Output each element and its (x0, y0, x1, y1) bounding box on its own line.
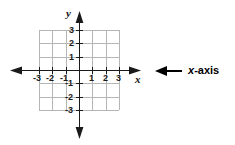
x-axis-label: x (135, 74, 141, 85)
x-axis-line (10, 67, 141, 75)
y-tick-label-2: 2 (69, 39, 74, 48)
y-axis-label: y (66, 8, 71, 19)
x-tick-label-3: 3 (116, 74, 121, 83)
x-axis-callout-suffix: -axis (194, 64, 219, 76)
left-arrow-icon (155, 66, 182, 76)
x-tick-label-1: 1 (89, 74, 94, 83)
y-tick-label-3: 3 (69, 26, 74, 35)
x-tick-label-2: 2 (103, 74, 108, 83)
x-axis-left-arrowhead-icon (10, 67, 22, 75)
x-axis-callout-label: x-axis (188, 65, 219, 76)
y-axis-top-arrowhead-icon (76, 11, 84, 23)
y-axis-bottom-arrowhead-icon (76, 127, 84, 139)
x-tick-label-neg3: -3 (33, 74, 41, 83)
y-tick-label-neg1: -1 (65, 79, 73, 88)
coordinate-plane-figure: -3 -2 -1 1 2 3 3 2 1 -1 -2 -3 y x x-axis (0, 0, 235, 145)
x-tick-label-neg2: -2 (46, 74, 54, 83)
y-tick-label-neg3: -3 (65, 106, 73, 115)
y-tick-label-neg2: -2 (65, 93, 73, 102)
y-tick-label-1: 1 (69, 53, 74, 62)
